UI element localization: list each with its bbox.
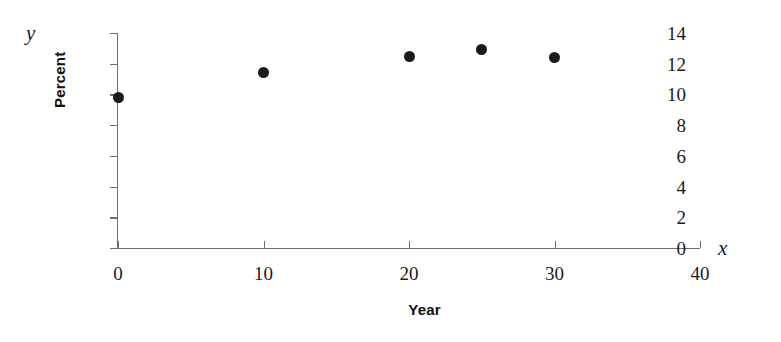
y-axis-title-text: Percent <box>51 52 68 108</box>
y-axis-line <box>117 33 118 248</box>
x-axis-title: Year <box>0 302 781 317</box>
y-tick-label: 2 <box>677 208 687 227</box>
x-tick-label: 20 <box>400 264 419 283</box>
y-tick-label: 14 <box>667 24 686 43</box>
y-axis-variable-label: y <box>26 23 35 44</box>
x-axis-variable-label: x <box>718 238 727 259</box>
y-tick-mark <box>110 156 117 157</box>
x-axis-line <box>117 248 700 249</box>
y-tick-label: 10 <box>667 85 686 104</box>
y-tick-mark <box>110 217 117 218</box>
y-tick-mark <box>110 33 117 34</box>
x-axis-title-text: Year <box>408 301 441 318</box>
data-point <box>549 52 560 63</box>
y-tick-mark <box>110 64 117 65</box>
y-tick-label: 0 <box>677 239 687 258</box>
x-tick-label: 0 <box>113 264 123 283</box>
y-tick-mark <box>110 187 117 188</box>
x-tick-mark <box>409 241 410 248</box>
x-tick-label: 10 <box>254 264 273 283</box>
y-tick-mark <box>110 248 117 249</box>
y-tick-label: 6 <box>677 146 687 165</box>
scatter-plot-figure: y x Percent Year 02468101214 010203040 <box>0 0 781 342</box>
data-point <box>404 51 415 62</box>
y-tick-mark <box>110 125 117 126</box>
y-tick-label: 8 <box>677 116 687 135</box>
x-tick-mark <box>700 241 701 248</box>
plot-area: 02468101214 010203040 <box>118 33 700 248</box>
x-tick-mark <box>264 241 265 248</box>
data-point <box>476 44 487 55</box>
y-tick-label: 4 <box>677 177 687 196</box>
data-point <box>258 67 269 78</box>
x-tick-label: 40 <box>691 264 710 283</box>
data-point <box>113 92 124 103</box>
x-tick-mark <box>118 241 119 248</box>
y-axis-title: Percent <box>52 52 67 108</box>
y-tick-label: 12 <box>667 54 686 73</box>
x-tick-mark <box>555 241 556 248</box>
x-tick-label: 30 <box>545 264 564 283</box>
